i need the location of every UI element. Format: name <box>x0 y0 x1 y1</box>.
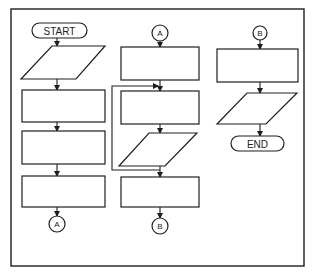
input-output-parallelogram-3[interactable] <box>217 93 297 124</box>
start-terminator[interactable]: START <box>32 23 87 38</box>
connector-b-in[interactable]: B <box>253 26 267 40</box>
connector-a-in[interactable]: A <box>152 25 168 41</box>
process-box-middle-2[interactable] <box>121 91 199 124</box>
start-label: START <box>44 26 76 37</box>
connector-a-out-label: A <box>54 220 60 229</box>
process-box-left-2[interactable] <box>22 131 105 164</box>
connector-a-in-label: A <box>157 29 163 38</box>
connector-b-out[interactable]: B <box>152 218 168 234</box>
input-output-parallelogram-1[interactable] <box>21 46 105 79</box>
left-column: START A <box>21 23 105 232</box>
connector-b-in-label: B <box>257 29 262 38</box>
middle-column: A B <box>112 25 199 234</box>
process-box-right-1[interactable] <box>217 49 298 82</box>
input-output-parallelogram-2[interactable] <box>119 133 197 166</box>
right-column: B END <box>217 26 298 151</box>
connector-a-out[interactable]: A <box>49 216 65 232</box>
flowchart-canvas: START A A <box>0 0 312 275</box>
process-box-middle-1[interactable] <box>121 47 199 80</box>
connector-b-out-label: B <box>157 222 162 231</box>
process-box-left-3[interactable] <box>22 176 105 207</box>
process-box-middle-3[interactable] <box>121 177 199 207</box>
end-label: END <box>247 139 268 150</box>
end-terminator[interactable]: END <box>231 136 284 151</box>
process-box-left-1[interactable] <box>22 90 105 122</box>
